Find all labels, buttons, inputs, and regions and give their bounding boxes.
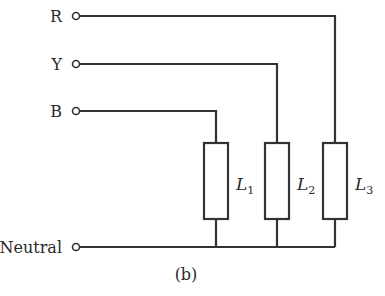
wire-r (80, 16, 335, 143)
circuit-diagram: R Y B Neutral L1 L2 L3 (b) (0, 0, 385, 296)
label-r: R (50, 7, 63, 26)
label-l1: L1 (235, 174, 254, 197)
terminal-r-icon (73, 13, 80, 20)
terminal-b-icon (73, 108, 80, 115)
load-l1-resistor (204, 143, 228, 219)
wire-b (80, 111, 216, 143)
terminal-neutral-icon (73, 244, 80, 251)
label-neutral: Neutral (0, 238, 62, 257)
terminal-y-icon (73, 61, 80, 68)
load-l3-resistor (323, 143, 347, 219)
label-l2: L2 (296, 174, 315, 197)
load-l2-resistor (265, 143, 289, 219)
wire-y (80, 64, 277, 143)
figure-caption: (b) (175, 265, 198, 284)
label-l3: L3 (354, 174, 373, 197)
label-b: B (50, 102, 62, 121)
label-y: Y (50, 55, 62, 74)
